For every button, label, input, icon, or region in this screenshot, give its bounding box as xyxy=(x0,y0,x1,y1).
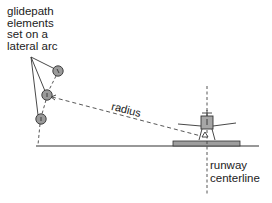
aircraft-icon xyxy=(178,110,236,140)
centerline-label-line: runway xyxy=(210,160,260,173)
caption-line: set on a xyxy=(7,29,58,41)
caption-line: lateral arc xyxy=(7,41,58,53)
glidepath-diagram: glidepath elements set on a lateral arc … xyxy=(0,0,272,203)
centerline-label-line: centerline xyxy=(210,173,260,186)
glidepath-caption: glidepath elements set on a lateral arc xyxy=(7,6,58,52)
runway xyxy=(173,141,240,146)
lateral-arc xyxy=(38,76,56,145)
caption-line: glidepath xyxy=(7,6,58,18)
runway-centerline-label: runway centerline xyxy=(210,160,260,185)
glidepath-elements xyxy=(36,66,63,124)
